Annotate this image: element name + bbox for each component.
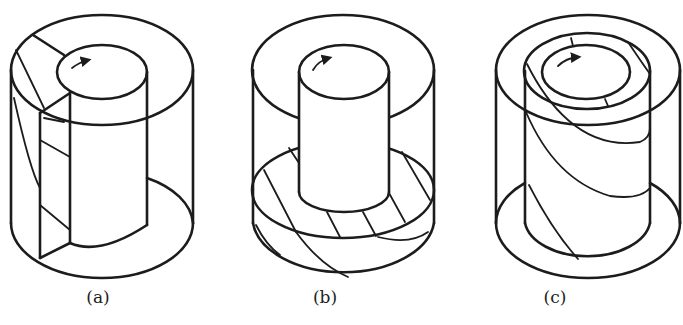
panel-label-b: (b) [305,287,345,307]
panel-label-c: (c) [535,287,575,307]
panel-label-a: (a) [78,287,118,307]
cylinder-b [252,15,434,277]
cylinder-c [496,15,680,278]
cylinder-a [11,15,193,278]
figure-canvas [0,0,683,325]
